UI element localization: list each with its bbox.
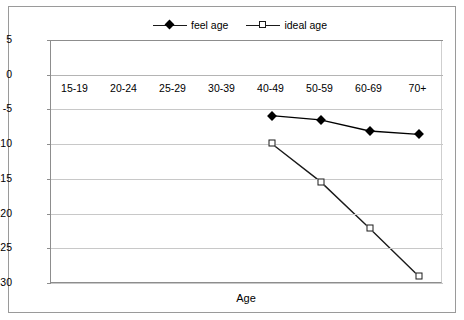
- y-axis-tick-label: -10: [0, 137, 12, 149]
- y-axis-tick-label: -25: [0, 241, 12, 253]
- series-lines: [51, 40, 443, 283]
- legend-entry-feel-age: feel age: [153, 19, 228, 31]
- filled-diamond-marker-icon: [153, 19, 187, 31]
- x-axis-category-label: 15-19: [61, 82, 88, 94]
- x-axis-category-label: 60-69: [355, 82, 382, 94]
- gridline: [51, 75, 443, 76]
- data-point-marker: [317, 178, 324, 185]
- y-axis-tick-label: 5: [0, 33, 12, 45]
- gridline: [51, 248, 443, 249]
- data-point-marker: [415, 273, 422, 280]
- y-axis-tick-label: -20: [0, 207, 12, 219]
- gridline: [51, 214, 443, 215]
- y-axis-tick-mark: [47, 179, 51, 180]
- open-square-marker-icon: [246, 19, 280, 31]
- y-axis-tick-mark: [47, 283, 51, 284]
- x-axis-title: Age: [50, 292, 442, 304]
- gridline: [51, 109, 443, 110]
- x-axis-category-label: 70+: [409, 82, 427, 94]
- series-line: [272, 116, 419, 135]
- y-axis-tick-label: 0: [0, 68, 12, 80]
- legend-entry-ideal-age: ideal age: [246, 19, 327, 31]
- y-axis-tick-mark: [47, 248, 51, 249]
- x-axis-category-label: 25-29: [159, 82, 186, 94]
- y-axis-tick-label: -5: [0, 102, 12, 114]
- y-axis-tick-mark: [47, 214, 51, 215]
- chart-legend: feel age ideal age: [150, 16, 330, 34]
- series-line: [272, 143, 419, 276]
- legend-label-feel-age: feel age: [191, 19, 228, 31]
- chart-container: feel age ideal age Age 50-5-10-15-20-25-…: [0, 0, 464, 320]
- data-point-marker: [268, 140, 275, 147]
- y-axis-tick-label: -30: [0, 276, 12, 288]
- y-axis-tick-mark: [47, 109, 51, 110]
- gridline: [51, 144, 443, 145]
- y-axis-tick-mark: [47, 75, 51, 76]
- x-axis-category-label: 20-24: [110, 82, 137, 94]
- gridline: [51, 283, 443, 284]
- x-axis-category-label: 30-39: [208, 82, 235, 94]
- y-axis-tick-mark: [47, 40, 51, 41]
- plot-area: [50, 40, 442, 283]
- x-axis-category-label: 50-59: [306, 82, 333, 94]
- y-axis-tick-label: -15: [0, 172, 12, 184]
- data-point-marker: [366, 225, 373, 232]
- gridline: [51, 179, 443, 180]
- x-axis-category-label: 40-49: [257, 82, 284, 94]
- legend-label-ideal-age: ideal age: [284, 19, 327, 31]
- gridline: [51, 40, 443, 41]
- y-axis-tick-mark: [47, 144, 51, 145]
